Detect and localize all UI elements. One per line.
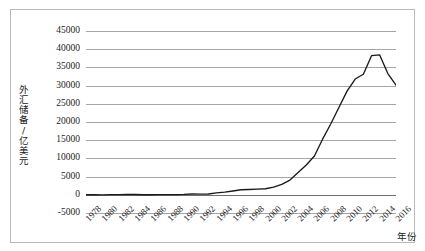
y-tick-label: 25000: [24, 99, 80, 109]
y-tick-label: 15000: [24, 135, 80, 145]
y-tick-label: 10000: [24, 153, 80, 163]
y-tick-label: 35000: [24, 62, 80, 72]
line-series: [86, 31, 396, 213]
y-tick-label: 40000: [24, 44, 80, 54]
plot-area: [86, 31, 396, 213]
chart-figure: 外汇储备/亿美元 1978198019821984198619881990199…: [10, 9, 415, 243]
y-tick-label: 30000: [24, 81, 80, 91]
y-tick-label: -5000: [24, 208, 80, 218]
y-tick-label: 0: [24, 190, 80, 200]
y-tick-label: 5000: [24, 172, 80, 182]
y-tick-label: 45000: [24, 26, 80, 36]
y-tick-label: 20000: [24, 117, 80, 127]
x-axis-title: 年份: [397, 229, 417, 243]
series-polyline: [86, 55, 396, 195]
x-tick-label: 2016: [394, 204, 413, 223]
